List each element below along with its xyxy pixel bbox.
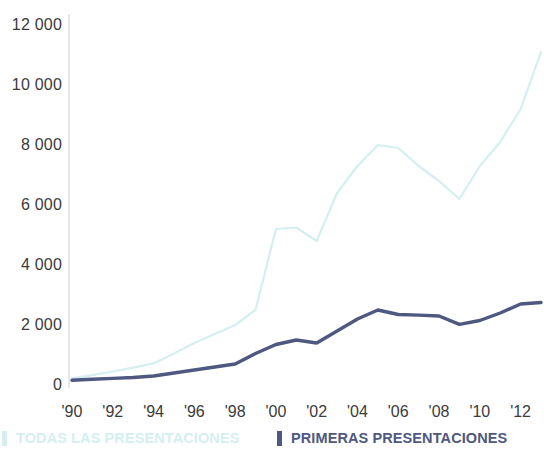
- y-axis-tick-label: 2 000: [2, 317, 62, 333]
- legend-swatch-icon: [2, 431, 7, 446]
- x-axis-tick-label: '90: [52, 404, 92, 420]
- y-axis-tick-labels: 12 00010 0008 0006 0004 0002 0000: [0, 0, 62, 400]
- x-axis-tick-label: '12: [501, 404, 541, 420]
- legend-swatch-icon: [277, 431, 282, 446]
- legend-item-primeras-presentaciones[interactable]: PRIMERAS PRESENTACIONES: [277, 428, 507, 448]
- x-axis-tick-label: '04: [337, 404, 377, 420]
- chart-plot-area: [0, 0, 544, 450]
- x-axis-tick-label: '94: [134, 404, 174, 420]
- chart-legend: TODAS LAS PRESENTACIONES PRIMERAS PRESEN…: [0, 428, 544, 450]
- y-axis-tick-label: 8 000: [2, 137, 62, 153]
- legend-item-label: PRIMERAS PRESENTACIONES: [291, 430, 507, 446]
- y-axis-tick-label: 4 000: [2, 257, 62, 273]
- x-axis-tick-label: '96: [174, 404, 214, 420]
- y-axis-tick-label: 0: [2, 377, 62, 393]
- x-axis-tick-label: '92: [93, 404, 133, 420]
- series-line-todas-las-presentaciones: [72, 52, 541, 378]
- x-axis-tick-label: '00: [256, 404, 296, 420]
- line-chart: 12 00010 0008 0006 0004 0002 0000 '90'92…: [0, 0, 544, 450]
- legend-item-label: TODAS LAS PRESENTACIONES: [16, 430, 239, 446]
- y-axis-tick-label: 10 000: [2, 77, 62, 93]
- x-axis-tick-label: '08: [419, 404, 459, 420]
- y-axis-tick-label: 12 000: [2, 17, 62, 33]
- legend-item-todas-las-presentaciones[interactable]: TODAS LAS PRESENTACIONES: [2, 428, 239, 448]
- series-line-primeras-presentaciones: [72, 303, 541, 381]
- x-axis-tick-labels: '90'92'94'96'98'00'02'04'06'08'10'12: [0, 398, 544, 422]
- y-axis-tick-label: 6 000: [2, 197, 62, 213]
- x-axis-tick-label: '98: [215, 404, 255, 420]
- x-axis-tick-label: '10: [460, 404, 500, 420]
- x-axis-tick-label: '02: [297, 404, 337, 420]
- x-axis-tick-label: '06: [378, 404, 418, 420]
